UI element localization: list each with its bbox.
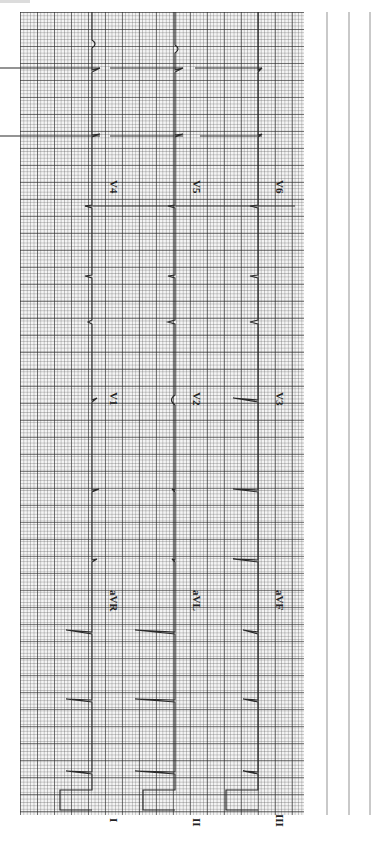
lead-label-avr: aVR [108, 590, 120, 611]
lead-label-iii: III [274, 814, 286, 827]
lead-label-v4: V4 [108, 180, 120, 193]
lead-label-avf: aVF [274, 590, 286, 610]
lead-label-v1: V1 [108, 392, 120, 405]
lead-label-avl: aVL [191, 590, 203, 611]
lead-label-v6: V6 [274, 180, 286, 193]
lead-label-ii: II [191, 818, 203, 827]
lead-label-v3: V3 [274, 392, 286, 405]
lead-label-v5: V5 [191, 180, 203, 193]
lead-label-v2: V2 [191, 392, 203, 405]
ecg-traces [0, 0, 389, 866]
lead-label-i: I [108, 818, 120, 822]
